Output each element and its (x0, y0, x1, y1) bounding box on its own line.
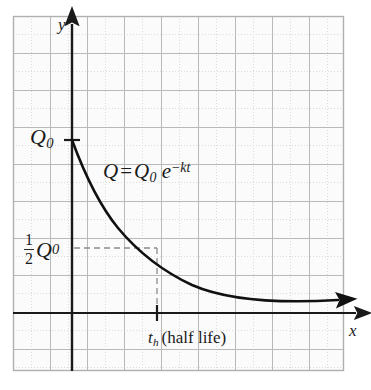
initial-quantity-symbol: Q (30, 124, 46, 149)
initial-quantity-subscript: 0 (46, 135, 54, 151)
equation-coefficient: Q (134, 159, 149, 183)
half-quantity-symbol: Q (36, 239, 52, 261)
x-axis-label: x (349, 322, 357, 339)
fraction-numerator: 1 (24, 232, 34, 248)
equation-exponent: −kt (171, 160, 190, 175)
equation-label: Q=Q0 e−kt (103, 161, 190, 185)
initial-quantity-label: Q0 (30, 126, 53, 151)
equation-coefficient-subscript: 0 (149, 170, 156, 185)
one-half-fraction: 1 2 (24, 232, 34, 267)
equation-lhs: Q (103, 159, 118, 183)
equation-base: e (162, 159, 171, 183)
half-quantity-label: 1 2 Q0 (24, 232, 59, 267)
exponential-decay-figure: y x Q0 Q=Q0 e−kt 1 2 Q0 th(half life) (0, 0, 371, 390)
y-axis-label: y (58, 16, 66, 33)
half-life-subscript: h (153, 336, 159, 348)
half-quantity-subscript: 0 (52, 242, 60, 257)
half-life-label: th(half life) (148, 329, 226, 348)
half-life-note: (half life) (159, 328, 227, 347)
equation-equals: = (118, 159, 134, 183)
fraction-denominator: 2 (24, 251, 34, 267)
plot-background (13, 16, 344, 371)
